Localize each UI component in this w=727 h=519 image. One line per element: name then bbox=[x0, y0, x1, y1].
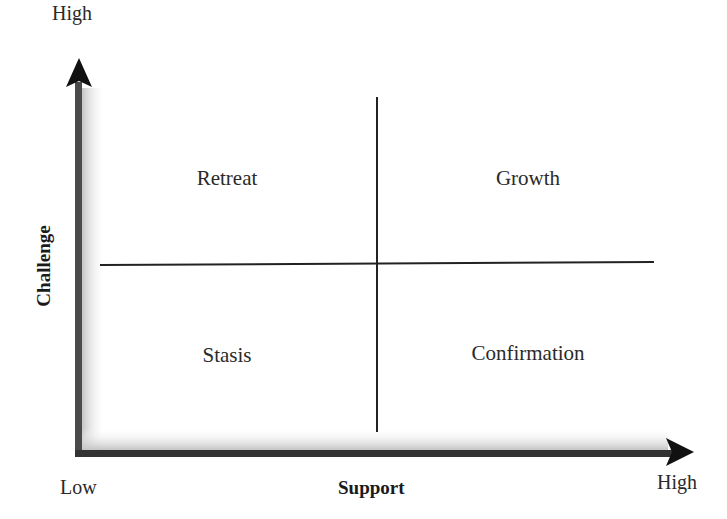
x-axis-high-label: High bbox=[657, 471, 697, 494]
matrix-diagram bbox=[0, 0, 727, 519]
quadrant-bottom-right: Confirmation bbox=[471, 341, 584, 366]
x-axis-low-label: Low bbox=[60, 476, 97, 499]
y-axis-high-label: High bbox=[52, 2, 92, 25]
x-axis-line bbox=[75, 450, 673, 457]
quadrant-top-left: Retreat bbox=[197, 166, 258, 191]
y-axis-line bbox=[75, 82, 82, 457]
y-axis-shade bbox=[82, 88, 106, 450]
quadrant-top-right: Growth bbox=[496, 166, 560, 191]
x-axis-title: Support bbox=[338, 477, 405, 499]
quadrant-bottom-left: Stasis bbox=[202, 343, 251, 368]
y-axis-title: Challenge bbox=[33, 225, 55, 306]
x-axis-shade bbox=[82, 428, 668, 450]
